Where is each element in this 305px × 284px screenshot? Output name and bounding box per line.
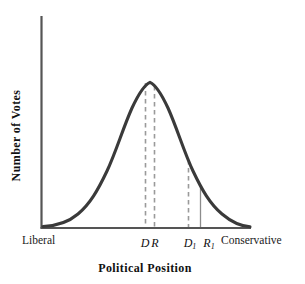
vote-distribution-curve xyxy=(43,82,250,227)
chart-figure: Number of Votes Political Position Liber… xyxy=(0,0,305,284)
tick-label-D: D xyxy=(141,236,150,251)
x-axis-left-label: Liberal xyxy=(22,234,55,246)
tick-label-D1: D1 xyxy=(184,236,197,251)
tick-label-R: R xyxy=(151,236,158,251)
tick-label-D-text: D xyxy=(141,236,150,250)
tick-label-D1-subscript: 1 xyxy=(192,242,196,251)
tick-label-R1-subscript: 1 xyxy=(211,242,215,251)
tick-label-R-text: R xyxy=(151,236,158,250)
tick-label-R1: R1 xyxy=(203,236,214,251)
x-axis-right-label: Conservative xyxy=(221,234,282,246)
tick-label-D1-text: D xyxy=(184,236,193,250)
y-axis-title: Number of Votes xyxy=(9,76,24,196)
x-axis-title: Political Position xyxy=(0,261,290,276)
